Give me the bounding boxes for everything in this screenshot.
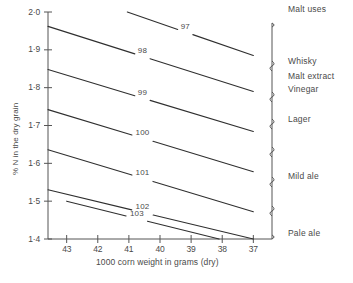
x-tick-label-42: 42	[88, 245, 108, 254]
malt-use-vinegar: Vinegar	[288, 85, 319, 94]
contour-label-100: 100	[136, 129, 150, 137]
x-tick-label-41: 41	[119, 245, 139, 254]
contour-label-98: 98	[138, 47, 147, 55]
figure-root: % N in the dry grain 1000 corn weight in…	[0, 0, 353, 283]
y-tick-label-1·8: 1·8	[16, 83, 40, 92]
y-tick-label-1·5: 1·5	[16, 197, 40, 206]
y-tick-label-2·0: 2·0	[16, 8, 40, 17]
malt-uses-header: Malt uses	[288, 5, 326, 14]
y-tick-label-1·4: 1·4	[16, 235, 40, 244]
malt-use-lager: Lager	[288, 115, 311, 124]
malt-use-whisky: Whisky	[288, 57, 317, 66]
y-tick-label-1·9: 1·9	[16, 45, 40, 54]
contour-label-97: 97	[181, 23, 190, 31]
x-tick-label-38: 38	[212, 245, 232, 254]
malt-use-mild-ale: Mild ale	[288, 172, 319, 181]
malt-use-malt-extract: Malt extract	[288, 72, 334, 81]
contour-label-101: 101	[136, 169, 150, 177]
x-tick-label-39: 39	[181, 245, 201, 254]
x-tick-label-40: 40	[150, 245, 170, 254]
text-layer: % N in the dry grain 1000 corn weight in…	[0, 0, 353, 283]
x-tick-label-43: 43	[57, 245, 77, 254]
contour-label-103: 103	[130, 210, 144, 218]
contour-label-99: 99	[138, 89, 147, 97]
x-tick-label-37: 37	[243, 245, 263, 254]
malt-use-pale-ale: Pale ale	[288, 229, 320, 238]
y-tick-label-1·7: 1·7	[16, 121, 40, 130]
x-axis-title: 1000 corn weight in grams (dry)	[96, 258, 219, 267]
y-tick-label-1·6: 1·6	[16, 159, 40, 168]
